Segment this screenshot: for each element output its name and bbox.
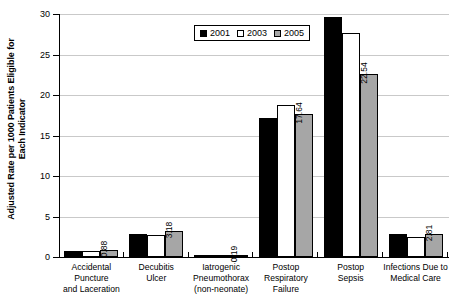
- bar-2001[interactable]: [324, 17, 342, 257]
- bar-2001[interactable]: [64, 251, 82, 257]
- bar-2001[interactable]: [129, 234, 147, 257]
- bar-set: 17.64: [253, 14, 318, 257]
- y-tick-label: 20: [22, 91, 50, 100]
- x-axis-category-label: IatrogenicPneumothorax(non-neonate): [189, 262, 254, 295]
- x-tick-mark: [447, 252, 448, 258]
- x-axis-label-line: and Laceration: [59, 284, 124, 295]
- legend-swatch-icon: [200, 30, 207, 37]
- legend-item-2005[interactable]: 2005: [274, 28, 304, 38]
- bar-group: 22.54: [318, 14, 383, 257]
- bar-2005[interactable]: 0.19: [230, 255, 248, 257]
- legend-label: 2005: [284, 28, 304, 38]
- x-axis-label-line: Postop: [318, 262, 383, 273]
- bar-2001[interactable]: [194, 255, 212, 257]
- bar-value-label: 0.88: [100, 241, 109, 258]
- bar-set: 0.88: [59, 14, 124, 257]
- legend-item-2003[interactable]: 2003: [237, 28, 267, 38]
- x-axis-label-line: Postop Respiratory: [253, 262, 318, 284]
- legend-label: 2003: [247, 28, 267, 38]
- bar-2003[interactable]: [407, 237, 425, 257]
- bar-group: 3.18: [124, 14, 189, 257]
- x-axis-label-line: Medical Care: [383, 273, 448, 284]
- x-axis-label-line: Failure: [253, 284, 318, 295]
- bar-2003[interactable]: [82, 251, 100, 257]
- bar-2001[interactable]: [389, 234, 407, 257]
- x-axis-category-label: Infections Due toMedical Care: [383, 262, 448, 295]
- bar-set: 0.19: [189, 14, 254, 257]
- x-axis-label-line: Infections Due to: [383, 262, 448, 273]
- legend-item-2001[interactable]: 2001: [200, 28, 230, 38]
- x-axis-label-line: Ulcer: [124, 273, 189, 284]
- bar-set: 2.81: [383, 14, 448, 257]
- bar-value-label: 17.64: [295, 102, 304, 123]
- y-tick-label: 15: [22, 132, 50, 141]
- y-tick-label: 30: [22, 10, 50, 19]
- x-axis-category-label: PostopSepsis: [318, 262, 383, 295]
- bar-value-label: 0.19: [230, 246, 239, 263]
- bar-2003[interactable]: [147, 235, 165, 257]
- bar-groups: 0.883.180.1917.6422.542.81: [59, 14, 448, 257]
- bar-set: 3.18: [124, 14, 189, 257]
- legend-swatch-icon: [274, 30, 281, 37]
- x-axis-label-line: Decubitis: [124, 262, 189, 273]
- y-tick-label: 0: [22, 253, 50, 262]
- x-axis-category-label: Postop RespiratoryFailure: [253, 262, 318, 295]
- legend-swatch-icon: [237, 30, 244, 37]
- x-axis-label-line: Sepsis: [318, 273, 383, 284]
- bar-group: 2.81: [383, 14, 448, 257]
- y-tick-label: 10: [22, 172, 50, 181]
- bar-2001[interactable]: [259, 118, 277, 257]
- bar-value-label: 3.18: [165, 222, 174, 239]
- x-axis-category-label: DecubitisUlcer: [124, 262, 189, 295]
- x-axis-label-line: Accidental Puncture: [59, 262, 124, 284]
- bar-2005[interactable]: 22.54: [360, 74, 378, 257]
- bar-2003[interactable]: [342, 33, 360, 257]
- bar-group: 0.88: [59, 14, 124, 257]
- y-axis-title-line1: Adjusted Rate per 1000 Patients Eligible…: [6, 38, 16, 220]
- y-tick-label: 25: [22, 51, 50, 60]
- x-axis-category-label: Accidental Punctureand Laceration: [59, 262, 124, 295]
- bar-2005[interactable]: 3.18: [165, 231, 183, 257]
- bar-2005[interactable]: 0.88: [100, 250, 118, 257]
- y-axis-title-line2: Each Indicator: [17, 38, 28, 220]
- bar-2003[interactable]: [212, 255, 230, 257]
- x-axis-label-line: (non-neonate): [189, 284, 254, 295]
- bar-value-label: 2.81: [425, 225, 434, 242]
- bar-2003[interactable]: [277, 105, 295, 257]
- chart-legend: 200120032005: [194, 25, 310, 41]
- x-axis-label-line: Pneumothorax: [189, 273, 254, 284]
- bar-chart: Adjusted Rate per 1000 Patients Eligible…: [0, 0, 455, 308]
- bar-group: 0.19: [189, 14, 254, 257]
- bar-2005[interactable]: 17.64: [295, 114, 313, 257]
- bar-2005[interactable]: 2.81: [425, 234, 443, 257]
- x-axis-label-line: Iatrogenic: [189, 262, 254, 273]
- x-axis-labels: Accidental Punctureand LacerationDecubit…: [59, 262, 448, 295]
- bar-value-label: 22.54: [360, 63, 369, 84]
- legend-label: 2001: [210, 28, 230, 38]
- bar-set: 22.54: [318, 14, 383, 257]
- y-tick-label: 5: [22, 213, 50, 222]
- bar-group: 17.64: [253, 14, 318, 257]
